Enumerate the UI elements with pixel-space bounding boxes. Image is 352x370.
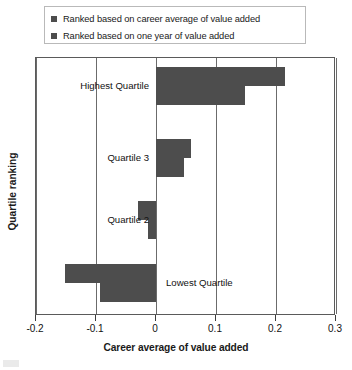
gridline-x-0.3 bbox=[336, 58, 337, 314]
x-tick-0.2 bbox=[275, 315, 276, 321]
x-tick-0.3 bbox=[335, 315, 336, 321]
legend-label-career-average: Ranked based on career average of value … bbox=[63, 14, 260, 25]
bar-quartile-3-one-year bbox=[156, 158, 184, 177]
x-tick-0.1 bbox=[215, 315, 216, 321]
legend-item-career-average: Ranked based on career average of value … bbox=[51, 11, 299, 27]
x-tick-label-0.2: 0.2 bbox=[268, 323, 282, 334]
x-tick-0 bbox=[155, 315, 156, 321]
bar-lowest-quartile-career-average bbox=[65, 264, 156, 283]
legend-label-one-year: Ranked based on one year of value added bbox=[63, 31, 234, 42]
chart-legend: Ranked based on career average of value … bbox=[44, 6, 306, 44]
page-edge-artifact bbox=[3, 360, 19, 367]
x-tick-label-0: 0 bbox=[152, 323, 158, 334]
bar-highest-quartile-career-average bbox=[156, 67, 285, 86]
bar-highest-quartile-one-year bbox=[156, 86, 245, 105]
bar-quartile-3-career-average bbox=[156, 139, 191, 158]
legend-item-one-year: Ranked based on one year of value added bbox=[51, 28, 299, 44]
category-label-highest-quartile: Highest Quartile bbox=[80, 80, 149, 91]
x-tick--0.2 bbox=[35, 315, 36, 321]
x-tick--0.1 bbox=[95, 315, 96, 321]
legend-swatch-one-year bbox=[51, 33, 57, 39]
gridline-x--0.2 bbox=[36, 58, 37, 314]
x-tick-label-0.1: 0.1 bbox=[208, 323, 222, 334]
x-tick-label--0.1: -0.1 bbox=[86, 323, 103, 334]
x-tick-label--0.2: -0.2 bbox=[26, 323, 43, 334]
gridline-x-0.2 bbox=[276, 58, 277, 314]
category-label-quartile-2: Quartile 2 bbox=[107, 214, 149, 225]
category-label-lowest-quartile: Lowest Quartile bbox=[166, 277, 233, 288]
category-label-quartile-3: Quartile 3 bbox=[107, 152, 149, 163]
y-axis-title: Quartile ranking bbox=[7, 117, 18, 267]
legend-swatch-career-average bbox=[51, 16, 57, 22]
chart-container: Ranked based on career average of value … bbox=[0, 0, 352, 370]
x-tick-label-0.3: 0.3 bbox=[328, 323, 342, 334]
x-axis-title: Career average of value added bbox=[0, 342, 352, 353]
bar-lowest-quartile-one-year bbox=[100, 283, 156, 302]
